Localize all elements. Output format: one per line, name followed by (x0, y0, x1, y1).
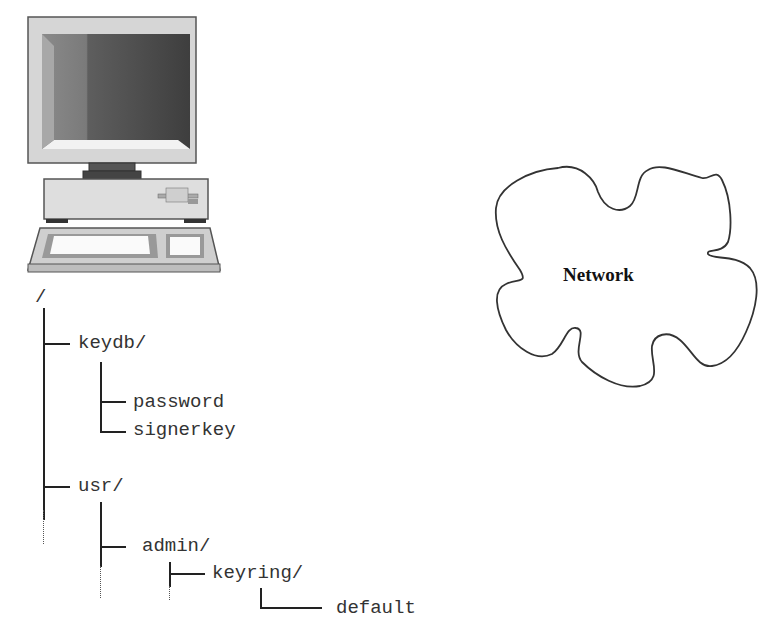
desktop-computer-icon (26, 14, 226, 276)
tree-item-usr[interactable]: usr/ (78, 477, 124, 496)
tree-item-keydb[interactable]: keydb/ (78, 334, 146, 353)
tree-item-default[interactable]: default (336, 599, 416, 618)
tree-item-signerkey[interactable]: signerkey (133, 421, 236, 440)
tree-root: / (35, 288, 46, 307)
tree-item-keyring[interactable]: keyring/ (212, 564, 303, 583)
tree-item-admin[interactable]: admin/ (142, 537, 210, 556)
network-label: Network (563, 264, 634, 286)
tree-item-password[interactable]: password (133, 393, 224, 412)
